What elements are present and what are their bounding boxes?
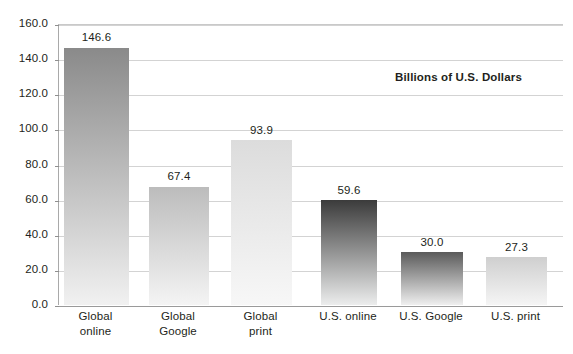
bar-value-label: 146.6 (82, 32, 111, 44)
y-axis-tick-label: 140.0 (19, 53, 48, 65)
units-annotation: Billions of U.S. Dollars (395, 71, 522, 84)
x-axis-category-label: Global online (58, 309, 133, 339)
bar-value-label: 59.6 (338, 185, 361, 197)
bar-value-label: 30.0 (421, 237, 444, 249)
y-axis-tick-label: 60.0 (25, 194, 48, 206)
x-axis: Global onlineGlobal GoogleGlobal printU.… (58, 309, 563, 354)
y-axis-tick-label: 0.0 (32, 299, 48, 311)
plot-area: 146.667.493.959.630.027.3 (58, 24, 563, 305)
y-axis-tick-label: 20.0 (25, 264, 48, 276)
bar[interactable] (321, 200, 377, 305)
bar-value-label: 93.9 (250, 125, 273, 137)
bar-group: 30.0 (401, 25, 463, 305)
bar[interactable] (149, 187, 209, 305)
y-axis-tick-label: 100.0 (19, 124, 48, 136)
x-axis-category-label: U.S. online (308, 309, 388, 324)
y-axis: 160.0140.0120.0100.080.060.040.020.00.0 (0, 0, 55, 354)
bar[interactable] (231, 140, 292, 305)
x-axis-category-label: Global Google (143, 309, 213, 339)
bars-container: 146.667.493.959.630.027.3 (59, 25, 563, 305)
y-axis-tick-label: 80.0 (25, 159, 48, 171)
bar-group: 27.3 (486, 25, 547, 305)
y-axis-tick-label: 40.0 (25, 229, 48, 241)
x-axis-category-label: U.S. print (478, 309, 553, 324)
bar[interactable] (64, 48, 129, 305)
x-axis-category-label: U.S. Google (388, 309, 474, 324)
bar-value-label: 27.3 (505, 242, 528, 254)
bar-value-label: 67.4 (168, 171, 191, 183)
bar-group: 67.4 (149, 25, 209, 305)
bar-chart: 160.0140.0120.0100.080.060.040.020.00.0 … (0, 0, 573, 354)
bar-group: 93.9 (231, 25, 292, 305)
bar[interactable] (401, 252, 463, 305)
y-axis-tick-label: 160.0 (19, 18, 48, 30)
bar-group: 59.6 (321, 25, 377, 305)
x-axis-category-label: Global print (225, 309, 296, 339)
axis-baseline (59, 306, 563, 307)
bar[interactable] (486, 257, 547, 305)
bar-group: 146.6 (64, 25, 129, 305)
y-axis-tick-label: 120.0 (19, 89, 48, 101)
y-axis-tick-mark (55, 306, 59, 307)
